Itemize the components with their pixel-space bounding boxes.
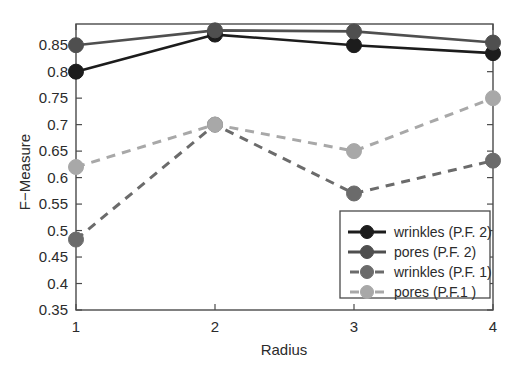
y-tick-label: 0.7 xyxy=(47,116,68,133)
data-point-marker xyxy=(347,24,362,39)
data-point-marker xyxy=(69,160,84,175)
data-point-marker xyxy=(208,117,223,132)
legend-label: wrinkles (P.F. 1) xyxy=(393,264,492,280)
data-point-marker xyxy=(69,64,84,79)
y-tick-label: 0.5 xyxy=(47,222,68,239)
y-tick-label: 0.8 xyxy=(47,63,68,80)
x-axis-tick-labels: 1234 xyxy=(72,318,497,335)
data-point-marker xyxy=(69,38,84,53)
series-line-0 xyxy=(76,35,493,72)
data-point-marker xyxy=(486,153,501,168)
legend-label: pores (P.F.1 ) xyxy=(394,284,476,300)
data-point-marker xyxy=(347,144,362,159)
x-tick-label: 3 xyxy=(350,318,358,335)
x-tick-label: 4 xyxy=(489,318,497,335)
legend-label: wrinkles (P.F. 2) xyxy=(393,224,492,240)
y-axis-tick-labels: 0.350.40.450.50.550.60.650.70.750.80.85 xyxy=(39,36,68,318)
x-tick-label: 2 xyxy=(211,318,219,335)
legend-label: pores (P.F. 2) xyxy=(394,244,476,260)
data-point-marker xyxy=(69,232,84,247)
y-tick-label: 0.85 xyxy=(39,36,68,53)
y-tick-label: 0.65 xyxy=(39,142,68,159)
line-chart: 0.350.40.450.50.550.60.650.70.750.80.85 … xyxy=(0,0,521,365)
data-point-marker xyxy=(347,186,362,201)
y-tick-label: 0.6 xyxy=(47,169,68,186)
legend-marker-2 xyxy=(361,266,374,279)
x-axis-title: Radius xyxy=(261,341,308,358)
legend-marker-3 xyxy=(361,286,374,299)
legend-marker-1 xyxy=(361,246,374,259)
data-point-marker xyxy=(486,35,501,50)
y-tick-label: 0.75 xyxy=(39,89,68,106)
y-tick-label: 0.4 xyxy=(47,275,68,292)
data-point-marker xyxy=(208,23,223,38)
data-point-marker xyxy=(347,38,362,53)
x-tick-label: 1 xyxy=(72,318,80,335)
figure-container: 0.350.40.450.50.550.60.650.70.750.80.85 … xyxy=(0,0,521,365)
y-tick-label: 0.35 xyxy=(39,301,68,318)
legend: wrinkles (P.F. 2)pores (P.F. 2)wrinkles … xyxy=(340,211,492,300)
data-series-group xyxy=(76,30,493,239)
series-line-1 xyxy=(76,30,493,45)
series-line-3 xyxy=(76,98,493,167)
y-tick-label: 0.55 xyxy=(39,195,68,212)
legend-marker-0 xyxy=(361,226,374,239)
y-axis-title: F−Measure xyxy=(16,134,33,210)
y-tick-label: 0.45 xyxy=(39,248,68,265)
data-point-marker xyxy=(486,91,501,106)
